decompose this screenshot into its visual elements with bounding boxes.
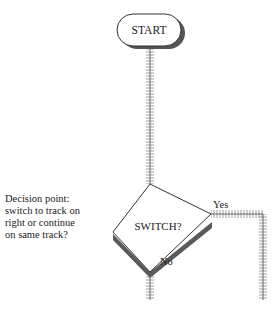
annotation-line: right or continue: [5, 217, 80, 229]
track-no-branch: [146, 276, 154, 300]
annotation-line: on same track?: [5, 229, 80, 241]
decision-label: SWITCH?: [134, 220, 181, 232]
flowchart: START SWITCH? Yes No: [0, 0, 278, 313]
decision-annotation: Decision point: switch to track on right…: [5, 193, 80, 241]
no-label: No: [160, 256, 173, 267]
yes-label: Yes: [213, 199, 228, 210]
annotation-line: Decision point:: [5, 193, 80, 205]
start-node: START: [117, 14, 185, 49]
track-yes-branch: [211, 210, 267, 300]
track-start-to-switch: [146, 48, 154, 184]
annotation-line: switch to track on: [5, 205, 80, 217]
start-label: START: [132, 24, 167, 36]
